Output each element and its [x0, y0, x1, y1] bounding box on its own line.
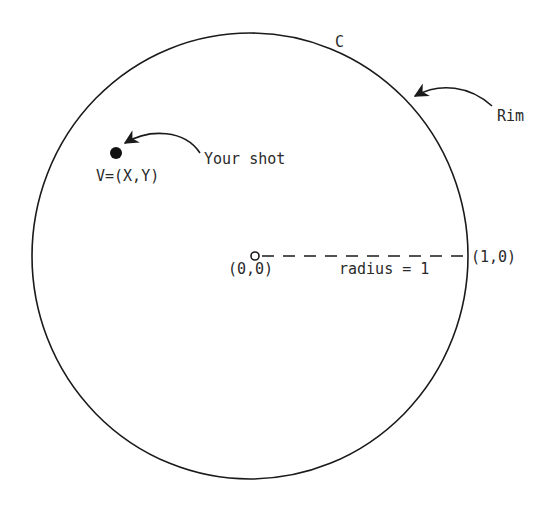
shot-point-dot [110, 147, 122, 159]
radius-label: radius = 1 [339, 260, 429, 278]
shot-arrow-icon [125, 133, 200, 153]
edge-point-label: (1,0) [471, 248, 516, 266]
center-label: (0,0) [228, 260, 273, 278]
rim-label: Rim [497, 107, 524, 125]
rim-arrow-icon [415, 88, 492, 106]
center-point-dot [251, 252, 259, 260]
dartboard-diagram: C Rim V=(X,Y) Your shot (0,0) radius = 1… [0, 0, 556, 506]
shot-label: Your shot [204, 150, 285, 168]
point-label: V=(X,Y) [96, 167, 159, 185]
circle-label: C [335, 33, 344, 51]
unit-circle [32, 33, 468, 479]
